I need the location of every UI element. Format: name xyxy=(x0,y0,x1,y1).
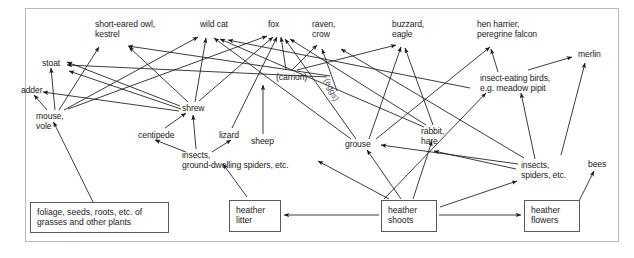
edge-mouse-wildcat xyxy=(64,37,198,110)
insects-ground-spiders-label: insects, ground-dwelling spiders, etc. xyxy=(182,151,289,171)
edge-flowers-bees xyxy=(578,171,594,203)
edge-shoots-insectsspiders xyxy=(440,181,517,207)
edge-lizard-fox xyxy=(232,37,277,128)
edge-rabbit-fox xyxy=(290,39,426,125)
edge-insectsground-shrew xyxy=(193,115,196,149)
short-eared-owl-kestrel-label: short-eared owl, kestrel xyxy=(95,20,155,40)
edge-foliage-mouse xyxy=(54,122,94,202)
edge-carrion-buzzard xyxy=(297,45,396,70)
figure-frame: short-eared owl, kestrelwild catfoxraven… xyxy=(0,0,634,258)
heather-flowers-box: heather flowers xyxy=(524,200,580,232)
edge-insectbirds-merlin xyxy=(528,57,572,70)
stoat-label: stoat xyxy=(42,59,60,69)
rabbit-hare-label: rabbit, hare xyxy=(421,127,444,147)
heather-litter-box: heather litter xyxy=(229,200,281,232)
bees-label: bees xyxy=(588,160,606,170)
fox-label: fox xyxy=(268,20,279,30)
heather-shoots-box: heather shoots xyxy=(381,200,437,232)
edge-insectsspiders-merlin xyxy=(561,63,585,155)
insects-spiders-label: insects, spiders, etc. xyxy=(521,161,566,181)
foliage-seeds-roots-box: foliage, seeds, roots, etc. of grasses a… xyxy=(30,202,169,233)
edge-insectsspiders-rabbit xyxy=(434,151,516,169)
edge-insectsspiders-birds xyxy=(521,93,535,159)
sheep-label: sheep xyxy=(251,137,274,147)
edge-rabbit-buzzard xyxy=(405,48,433,125)
lizard-label: lizard xyxy=(219,131,239,141)
carrion-label: (carrion) xyxy=(276,73,307,83)
raven-crow-label: raven, crow xyxy=(312,20,335,40)
wild-cat-label: wild cat xyxy=(200,20,228,30)
edge-insectbirds-henharrier xyxy=(491,49,498,72)
centipede-label: centipede xyxy=(138,131,174,141)
edge-shoots-grouse xyxy=(367,150,401,199)
edge-grouse-fox xyxy=(285,39,356,139)
edge-shrew-owl xyxy=(129,47,188,102)
hen-harrier-peregrine-label: hen harrier, peregrine falcon xyxy=(477,20,537,40)
edge-cross-wildcat-long xyxy=(228,40,470,88)
mouse-vole-label: mouse, vole xyxy=(36,112,64,132)
edge-carrion-fox xyxy=(281,37,286,70)
edges-group xyxy=(34,36,594,215)
edge-centipede-shrew xyxy=(165,113,186,128)
edge-mouse-adder xyxy=(34,95,47,110)
grouse-label: grouse xyxy=(345,140,371,150)
adder-label: adder xyxy=(21,86,42,96)
shrew-label: shrew xyxy=(182,104,204,114)
edge-shrew-wildcat xyxy=(195,38,206,102)
insect-eating-birds-label: insect-eating birds, e.g. meadow pipit xyxy=(480,74,550,94)
edge-mouse-stoat xyxy=(51,68,55,110)
edge-grouse-buzzard xyxy=(369,47,401,139)
buzzard-eagle-label: buzzard, eagle xyxy=(392,20,424,40)
merlin-label: merlin xyxy=(578,50,601,60)
edge-mouse-owl xyxy=(59,47,99,110)
